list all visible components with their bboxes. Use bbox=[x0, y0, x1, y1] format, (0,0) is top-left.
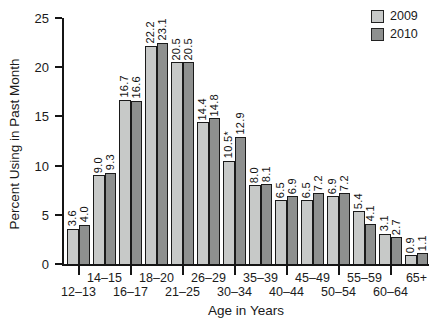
y-tick-25 bbox=[55, 17, 62, 19]
bar-2010-30–34 bbox=[235, 137, 247, 264]
bar-2010-26–29 bbox=[209, 118, 221, 264]
value-label-2010-65+: 1.1 bbox=[417, 235, 428, 251]
bar-2010-40–44 bbox=[287, 196, 299, 264]
value-label-2010-12–13: 4.0 bbox=[79, 206, 90, 222]
value-label-2009-65+: 0.9 bbox=[405, 237, 416, 253]
x-category-label-30–34: 30–34 bbox=[217, 286, 252, 299]
bar-2009-40–44 bbox=[275, 200, 287, 264]
bar-group-26–29: 14.414.826–29 bbox=[197, 18, 220, 264]
bar-2010-14–15 bbox=[105, 173, 117, 265]
x-tick-12–13 bbox=[78, 264, 80, 275]
value-label-2009-18–20: 22.2 bbox=[145, 21, 156, 44]
bar-2010-18–20 bbox=[157, 43, 169, 264]
legend-item-2010: 2010 bbox=[371, 28, 418, 41]
bar-slot-2010-26–29: 14.8 bbox=[209, 18, 221, 264]
x-axis-title: Age in Years bbox=[208, 303, 284, 318]
bar-2009-35–39 bbox=[249, 185, 261, 264]
y-tick-15 bbox=[55, 115, 62, 117]
value-label-2009-45–49: 6.5 bbox=[301, 182, 312, 198]
bar-2009-14–15 bbox=[93, 175, 105, 264]
value-label-2009-26–29: 14.4 bbox=[197, 98, 208, 121]
bar-group-14–15: 9.09.314–15 bbox=[93, 18, 116, 264]
bar-slot-2009-55–59: 5.4 bbox=[353, 18, 365, 264]
bar-slot-2009-16–17: 16.7 bbox=[119, 18, 131, 264]
bar-group-45–49: 6.57.245–49 bbox=[301, 18, 324, 264]
bar-2009-65+ bbox=[405, 255, 417, 264]
bar-slot-2009-12–13: 3.6 bbox=[67, 18, 79, 264]
value-label-2009-50–54: 6.9 bbox=[327, 178, 338, 194]
bar-2009-12–13 bbox=[67, 229, 79, 264]
bar-slot-2010-30–34: 12.9 bbox=[235, 18, 247, 264]
bar-group-30–34: 10.5*12.930–34 bbox=[223, 18, 246, 264]
y-tick-label-20: 20 bbox=[35, 61, 49, 74]
bars-row: 3.64.012–139.09.314–1516.716.616–1722.22… bbox=[67, 18, 428, 264]
bar-slot-2010-16–17: 16.6 bbox=[131, 18, 143, 264]
x-category-label-21–25: 21–25 bbox=[165, 286, 200, 299]
bar-group-16–17: 16.716.616–17 bbox=[119, 18, 142, 264]
bar-slot-2009-18–20: 22.2 bbox=[145, 18, 157, 264]
y-tick-label-25: 25 bbox=[35, 12, 49, 25]
value-label-2010-60–64: 2.7 bbox=[391, 219, 402, 235]
bar-2010-60–64 bbox=[391, 237, 403, 264]
bar-2009-30–34 bbox=[223, 161, 235, 264]
x-category-label-14–15: 14–15 bbox=[87, 272, 122, 285]
bar-2009-55–59 bbox=[353, 211, 365, 264]
bar-2009-60–64 bbox=[379, 234, 391, 265]
y-tick-label-10: 10 bbox=[35, 159, 49, 172]
bar-2009-21–25 bbox=[171, 62, 183, 264]
x-tick-40–44 bbox=[286, 264, 288, 275]
value-label-2010-35–39: 8.1 bbox=[261, 166, 272, 182]
bar-slot-2010-55–59: 4.1 bbox=[365, 18, 377, 264]
bar-slot-2010-45–49: 7.2 bbox=[313, 18, 325, 264]
x-tick-16–17 bbox=[130, 264, 132, 275]
bar-slot-2009-65+: 0.9 bbox=[405, 18, 417, 264]
plot-area: 3.64.012–139.09.314–1516.716.616–1722.22… bbox=[62, 18, 429, 266]
bar-slot-2009-21–25: 20.5 bbox=[171, 18, 183, 264]
value-label-2009-55–59: 5.4 bbox=[353, 193, 364, 209]
bar-slot-2009-60–64: 3.1 bbox=[379, 18, 391, 264]
value-label-2009-30–34: 10.5* bbox=[223, 131, 234, 158]
bar-slot-2009-50–54: 6.9 bbox=[327, 18, 339, 264]
value-label-2010-16–17: 16.6 bbox=[131, 76, 142, 99]
bar-slot-2010-14–15: 9.3 bbox=[105, 18, 117, 264]
bar-2010-65+ bbox=[417, 253, 429, 264]
bar-group-18–20: 22.223.118–20 bbox=[145, 18, 168, 264]
bar-slot-2009-40–44: 6.5 bbox=[275, 18, 287, 264]
legend-item-2009: 2009 bbox=[371, 10, 418, 23]
bar-group-35–39: 8.08.135–39 bbox=[249, 18, 272, 264]
value-label-2010-50–54: 7.2 bbox=[339, 175, 350, 191]
x-category-label-45–49: 45–49 bbox=[295, 272, 330, 285]
x-category-label-65+: 65+ bbox=[406, 272, 427, 285]
y-tick-label-0: 0 bbox=[42, 258, 49, 271]
x-category-label-50–54: 50–54 bbox=[321, 286, 356, 299]
x-tick-21–25 bbox=[182, 264, 184, 275]
bar-2010-12–13 bbox=[79, 225, 91, 264]
bar-2009-16–17 bbox=[119, 100, 131, 264]
value-label-2009-14–15: 9.0 bbox=[93, 157, 104, 173]
x-category-label-40–44: 40–44 bbox=[269, 286, 304, 299]
bar-2010-45–49 bbox=[313, 193, 325, 264]
value-label-2010-18–20: 23.1 bbox=[157, 18, 168, 41]
x-category-label-26–29: 26–29 bbox=[191, 272, 226, 285]
x-category-label-55–59: 55–59 bbox=[347, 272, 382, 285]
bar-slot-2009-30–34: 10.5* bbox=[223, 18, 235, 264]
y-tick-10 bbox=[55, 165, 62, 167]
bar-2009-26–29 bbox=[197, 122, 209, 264]
value-label-2009-12–13: 3.6 bbox=[67, 210, 78, 226]
x-tick-30–34 bbox=[234, 264, 236, 275]
y-tick-20 bbox=[55, 66, 62, 68]
value-label-2010-40–44: 6.9 bbox=[287, 178, 298, 194]
x-category-label-35–39: 35–39 bbox=[243, 272, 278, 285]
y-tick-label-5: 5 bbox=[42, 208, 49, 221]
bar-slot-2010-65+: 1.1 bbox=[417, 18, 429, 264]
bar-group-40–44: 6.56.940–44 bbox=[275, 18, 298, 264]
bar-slot-2010-35–39: 8.1 bbox=[261, 18, 273, 264]
bar-group-21–25: 20.520.521–25 bbox=[171, 18, 194, 264]
bar-2010-35–39 bbox=[261, 184, 273, 264]
bar-slot-2009-26–29: 14.4 bbox=[197, 18, 209, 264]
value-label-2010-30–34: 12.9 bbox=[235, 112, 246, 135]
value-label-2009-21–25: 20.5 bbox=[171, 38, 182, 61]
bar-2009-50–54 bbox=[327, 196, 339, 264]
bar-slot-2010-21–25: 20.5 bbox=[183, 18, 195, 264]
bar-slot-2010-18–20: 23.1 bbox=[157, 18, 169, 264]
